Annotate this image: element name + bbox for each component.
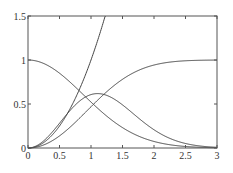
y-tick-label: 1.5 bbox=[14, 11, 27, 22]
x-tick-label: 1.5 bbox=[116, 150, 129, 161]
x-tick-label: 2 bbox=[152, 150, 157, 161]
y-axis: 00.511.5 bbox=[14, 11, 218, 154]
line-chart: 00.511.522.53 00.511.5 bbox=[0, 0, 233, 173]
y-tick-label: 0 bbox=[21, 143, 26, 154]
y-tick-label: 1 bbox=[21, 55, 26, 66]
curve-decaying bbox=[28, 60, 217, 148]
chart-curves bbox=[28, 16, 217, 148]
curve-sigmoid bbox=[28, 60, 217, 148]
curve-rising-steep bbox=[28, 16, 105, 148]
x-tick-label: 0.5 bbox=[53, 150, 66, 161]
x-tick-label: 2.5 bbox=[179, 150, 192, 161]
x-tick-label: 3 bbox=[215, 150, 220, 161]
x-tick-label: 1 bbox=[89, 150, 94, 161]
curve-bump bbox=[28, 94, 217, 148]
y-tick-label: 0.5 bbox=[14, 99, 27, 110]
x-tick-label: 0 bbox=[26, 150, 31, 161]
